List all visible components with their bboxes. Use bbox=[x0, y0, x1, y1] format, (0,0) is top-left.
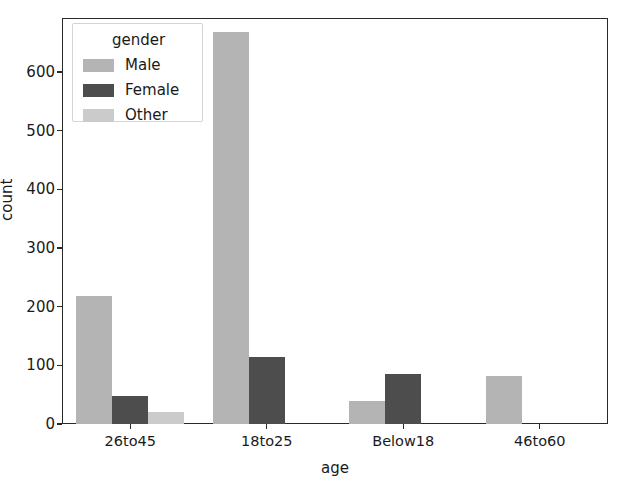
y-tick-label: 300 bbox=[9, 241, 55, 256]
legend: gender MaleFemaleOther bbox=[72, 23, 203, 122]
y-tick-mark bbox=[57, 365, 62, 366]
bar bbox=[76, 296, 112, 424]
y-tick-label: 0 bbox=[9, 417, 55, 432]
y-tick-mark bbox=[57, 306, 62, 307]
y-tick-label: 200 bbox=[9, 299, 55, 314]
x-tick-label: 46to60 bbox=[514, 433, 565, 449]
y-tick-label: 500 bbox=[9, 123, 55, 138]
y-tick-mark bbox=[57, 130, 62, 131]
legend-entry: Other bbox=[83, 104, 168, 126]
bar bbox=[486, 376, 522, 424]
bar bbox=[213, 32, 249, 424]
bar bbox=[385, 374, 421, 424]
bar bbox=[349, 401, 385, 424]
x-tick-mark bbox=[266, 424, 267, 429]
x-axis-label: age bbox=[321, 459, 349, 477]
y-tick-mark bbox=[57, 71, 62, 72]
figure-canvas: 0100200300400500600 26to4518to25Below184… bbox=[0, 0, 629, 495]
y-tick-mark bbox=[57, 189, 62, 190]
legend-title: gender bbox=[73, 31, 204, 49]
bar bbox=[249, 357, 285, 424]
x-tick-label: Below18 bbox=[372, 433, 434, 449]
x-tick-label: 18to25 bbox=[241, 433, 292, 449]
x-tick-mark bbox=[539, 424, 540, 429]
y-tick-mark bbox=[57, 247, 62, 248]
y-axis-label: count bbox=[0, 179, 16, 221]
bar bbox=[148, 412, 184, 424]
legend-entry: Female bbox=[83, 79, 179, 101]
legend-label: Male bbox=[125, 58, 161, 73]
bar bbox=[112, 396, 148, 424]
legend-entry: Male bbox=[83, 54, 161, 76]
legend-swatch bbox=[83, 59, 114, 72]
x-tick-mark bbox=[403, 424, 404, 429]
legend-swatch bbox=[83, 84, 114, 97]
x-tick-mark bbox=[130, 424, 131, 429]
legend-label: Female bbox=[125, 83, 179, 98]
y-tick-label: 100 bbox=[9, 358, 55, 373]
y-tick-label: 600 bbox=[9, 65, 55, 80]
legend-swatch bbox=[83, 109, 114, 122]
x-tick-label: 26to45 bbox=[105, 433, 156, 449]
legend-label: Other bbox=[125, 108, 168, 123]
y-tick-mark bbox=[57, 423, 62, 424]
